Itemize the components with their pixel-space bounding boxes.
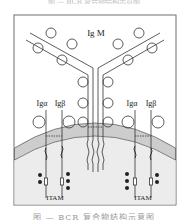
right-ig-alpha-label: Igα xyxy=(127,99,139,108)
left-ig-beta-label: Igβ xyxy=(55,99,66,108)
bcr-complex-diagram: Ig M Igα Igβ Igα Igβ ITAM ITAM xyxy=(0,0,188,220)
right-itam-label: ITAM xyxy=(134,194,152,202)
right-ig-beta-label: Igβ xyxy=(146,99,157,108)
igm-label: Ig M xyxy=(87,28,105,38)
left-ig-alpha-label: Igα xyxy=(37,99,49,108)
left-itam-label: ITAM xyxy=(46,194,64,202)
figure-caption: 图 — BCR 复合物结构示意图 xyxy=(0,211,188,220)
